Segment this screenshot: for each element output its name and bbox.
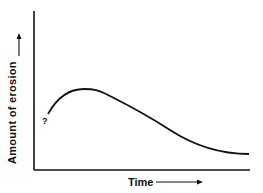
chart-canvas [0, 0, 263, 193]
uncertain-start-annotation: ? [42, 116, 48, 126]
x-arrowhead-icon [197, 180, 203, 185]
y-arrowhead-icon [17, 33, 22, 39]
y-axis-label: Amount of erosion [6, 61, 18, 164]
x-axis-label: Time [128, 176, 153, 188]
erosion-curve [48, 89, 249, 154]
